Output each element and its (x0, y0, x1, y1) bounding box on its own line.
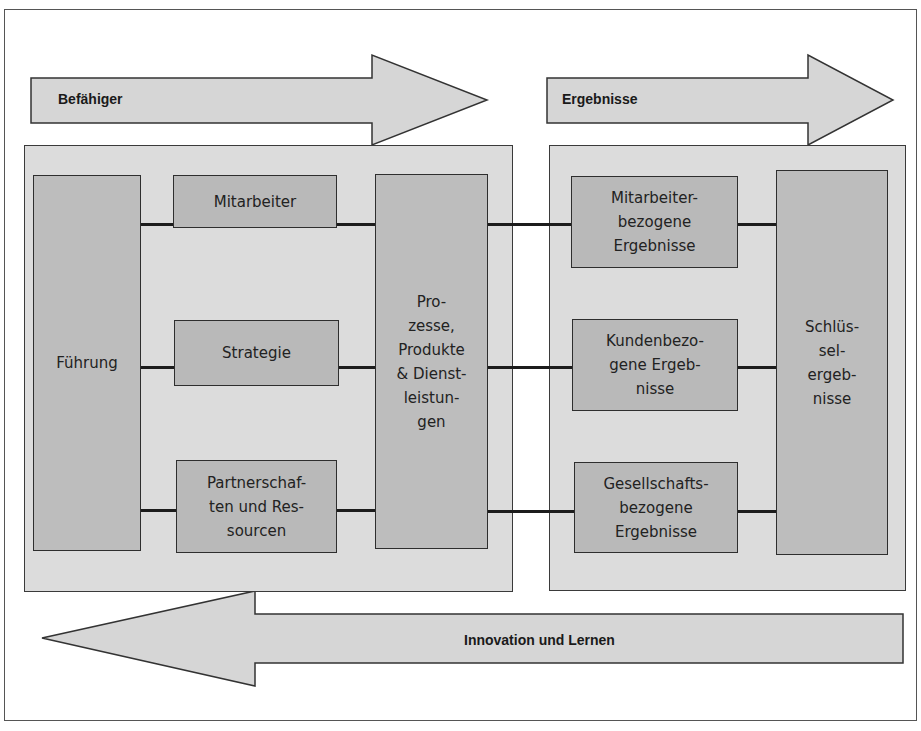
connector-customer-results-key (737, 366, 777, 369)
connector-leadership-strategy (140, 366, 175, 369)
society-results-box: Gesellschafts- bezogene Ergebnisse (574, 462, 738, 553)
results-arrow-label: Ergebnisse (562, 91, 637, 107)
key-results-box: Schlüs- sel- ergeb- nisse (776, 170, 888, 555)
customer-results-box: Kundenbezo- gene Ergeb- nisse (572, 319, 738, 411)
leadership-box: Führung (33, 175, 141, 551)
connector-leadership-partnerships (140, 509, 177, 512)
connector-partnerships-processes (336, 509, 376, 512)
partnerships-resources-box: Partnerschaf- ten und Res- sourcen (176, 460, 337, 553)
connector-people-processes (336, 223, 376, 226)
connector-people-results-key (737, 223, 777, 226)
connector-processes-customer-results (487, 366, 573, 369)
people-box: Mitarbeiter (173, 175, 337, 228)
people-results-box: Mitarbeiter- bezogene Ergebnisse (571, 176, 738, 268)
enablers-arrow-label: Befähiger (58, 91, 123, 107)
feedback-arrow-label: Innovation und Lernen (464, 632, 615, 648)
connector-processes-people-results (487, 223, 572, 226)
connector-strategy-processes (338, 366, 376, 369)
connector-society-results-key (737, 510, 777, 513)
processes-products-services-box: Pro- zesse, Produkte & Dienst- leistun- … (375, 174, 488, 549)
strategy-box: Strategie (174, 320, 339, 386)
connector-processes-society-results (487, 510, 575, 513)
connector-leadership-people (140, 223, 174, 226)
